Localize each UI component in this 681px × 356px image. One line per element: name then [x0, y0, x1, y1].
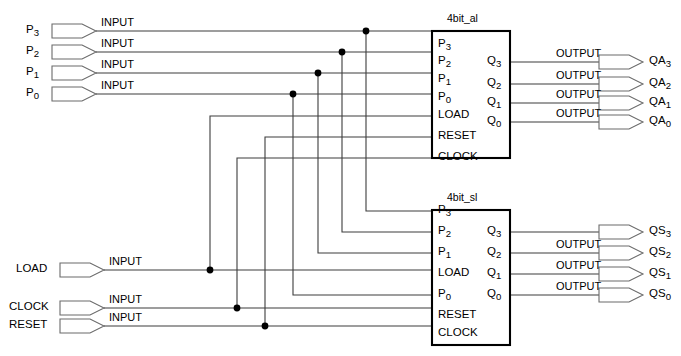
net-p2-branch-to-block-s — [342, 52, 432, 232]
output-port-shape-qs1[interactable] — [599, 267, 643, 281]
output-port-shapes — [599, 55, 643, 302]
block-s-pin-reset: RESET — [438, 309, 476, 321]
net-p3 — [96, 31, 432, 211]
output-label-qs0: QS0 — [649, 288, 671, 302]
output-label-qa0: QA0 — [649, 115, 671, 129]
block-s-pin-clock: CLOCK — [438, 327, 478, 339]
output-type-label-qs2: OUTPUT — [556, 239, 601, 250]
input-label-p0: P0 — [26, 87, 39, 101]
output-type-label-qs1: OUTPUT — [556, 260, 601, 271]
input-label-p2: P2 — [26, 45, 39, 59]
input-type-label-reset: INPUT — [109, 312, 142, 323]
net-p0-branch-to-block-s — [293, 94, 432, 295]
output-type-label-qa1: OUTPUT — [556, 89, 601, 100]
output-port-shape-qa1[interactable] — [599, 96, 643, 110]
input-port-shape-p0[interactable] — [52, 87, 96, 101]
block-a-pin-p0: P0 — [438, 91, 451, 105]
block-a-pin-q0: Q0 — [487, 115, 501, 129]
block-a-pin-p1: P1 — [438, 73, 451, 87]
output-label-qa1: QA1 — [649, 96, 671, 110]
block-s-pin-q1: Q1 — [487, 267, 501, 281]
output-port-shape-qs0[interactable] — [599, 288, 643, 302]
output-type-label-qs0: OUTPUT — [556, 281, 601, 292]
input-type-label-p0: INPUT — [101, 80, 134, 91]
block-a-pin-p2: P2 — [438, 55, 451, 69]
input-type-label-p2: INPUT — [101, 38, 134, 49]
input-label-load: LOAD — [16, 263, 47, 275]
input-label-p1: P1 — [26, 66, 39, 80]
input-port-shape-p3[interactable] — [52, 24, 96, 38]
block-a-pin-load: LOAD — [438, 109, 469, 121]
junction-dot-clock — [234, 305, 241, 312]
input-port-shape-clock[interactable] — [60, 301, 104, 315]
input-port-shape-reset[interactable] — [60, 319, 104, 333]
net-clock-branch-to-block-a — [237, 158, 432, 308]
input-type-label-p1: INPUT — [101, 59, 134, 70]
output-type-label-qa3: OUTPUT — [556, 48, 601, 59]
output-port-shape-qa3[interactable] — [599, 55, 643, 69]
net-load — [104, 116, 432, 270]
output-port-shape-qs3[interactable] — [599, 225, 643, 239]
block-s-pin-p0: P0 — [438, 288, 451, 302]
input-label-clock: CLOCK — [9, 301, 49, 313]
output-type-label-qa2: OUTPUT — [556, 70, 601, 81]
block-a-pin-q2: Q2 — [487, 77, 501, 91]
junction-dot-p2 — [339, 49, 346, 56]
input-label-reset: RESET — [9, 319, 47, 331]
block-s-pin-q3: Q3 — [487, 225, 501, 239]
net-load-branch-to-block-a — [210, 116, 432, 270]
block-a-pin-reset: RESET — [438, 130, 476, 142]
input-port-shape-load[interactable] — [60, 263, 104, 277]
net-p1 — [96, 73, 432, 253]
output-label-qs1: QS1 — [649, 267, 671, 281]
input-type-label-load: INPUT — [109, 256, 142, 267]
block-s-pin-q0: Q0 — [487, 288, 501, 302]
block-title-4bit-sl: 4bit_sl — [447, 192, 477, 203]
output-port-shape-qa0[interactable] — [599, 115, 643, 129]
junction-dot-p0 — [290, 91, 297, 98]
output-label-qa2: QA2 — [649, 77, 671, 91]
input-label-p3: P3 — [26, 24, 39, 38]
junction-dot-reset — [262, 323, 269, 330]
junction-dot-p1 — [315, 70, 322, 77]
block-s-pin-p1: P1 — [438, 246, 451, 260]
net-p0 — [96, 94, 432, 295]
input-type-label-clock: INPUT — [109, 294, 142, 305]
schematic-canvas: P3 P2 P1 P0 LOAD CLOCK RESET INPUT INPUT… — [0, 0, 681, 356]
input-port-shape-p1[interactable] — [52, 66, 96, 80]
output-port-shape-qs2[interactable] — [599, 246, 643, 260]
input-port-shapes — [52, 24, 104, 333]
block-a-pin-q1: Q1 — [487, 96, 501, 110]
output-type-label-qa0: OUTPUT — [556, 108, 601, 119]
net-p1-branch-to-block-s — [318, 73, 432, 253]
net-clock — [104, 158, 432, 308]
block-a-pin-p3: P3 — [438, 38, 451, 52]
net-p3-branch-to-block-s — [366, 31, 432, 211]
junction-dot-p3 — [363, 28, 370, 35]
output-port-shape-qa2[interactable] — [599, 77, 643, 91]
input-type-label-p3: INPUT — [101, 17, 134, 28]
output-label-qs2: QS2 — [649, 246, 671, 260]
block-s-pin-p3: P3 — [438, 204, 451, 218]
output-label-qs3: QS3 — [649, 225, 671, 239]
block-s-pin-p2: P2 — [438, 225, 451, 239]
block-s-pin-q2: Q2 — [487, 246, 501, 260]
block-a-pin-clock: CLOCK — [438, 151, 478, 163]
block-s-pin-load: LOAD — [438, 267, 469, 279]
input-port-shape-p2[interactable] — [52, 45, 96, 59]
block-a-pin-q3: Q3 — [487, 55, 501, 69]
net-p2 — [96, 52, 432, 232]
block-title-4bit-al: 4bit_al — [447, 13, 478, 24]
junction-dot-load — [207, 267, 214, 274]
output-label-qa3: QA3 — [649, 55, 671, 69]
